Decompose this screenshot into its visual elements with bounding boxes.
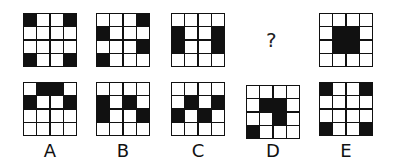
option-b-label[interactable]: B: [96, 140, 150, 161]
empty-cell: [64, 83, 76, 95]
option-c-grid[interactable]: [171, 82, 225, 136]
empty-cell: [333, 54, 345, 66]
empty-cell: [37, 54, 49, 66]
empty-cell: [24, 27, 36, 39]
empty-cell: [212, 110, 224, 122]
empty-cell: [172, 54, 184, 66]
question-grid-1: [23, 13, 77, 67]
filled-cell: [320, 123, 332, 135]
question-grid-2: [96, 13, 150, 67]
option-e-grid[interactable]: [319, 82, 373, 136]
filled-cell: [24, 96, 36, 108]
empty-cell: [37, 123, 49, 135]
filled-cell: [212, 96, 224, 108]
empty-cell: [51, 14, 63, 26]
filled-cell: [274, 99, 286, 111]
empty-cell: [124, 41, 136, 53]
empty-cell: [137, 96, 149, 108]
empty-cell: [333, 14, 345, 26]
empty-cell: [124, 83, 136, 95]
empty-cell: [137, 54, 149, 66]
question-grid-5: [319, 13, 373, 67]
filled-cell: [97, 110, 109, 122]
empty-cell: [333, 83, 345, 95]
filled-cell: [97, 96, 109, 108]
empty-cell: [64, 110, 76, 122]
option-a-label[interactable]: A: [23, 140, 77, 161]
empty-cell: [37, 27, 49, 39]
empty-cell: [274, 126, 286, 138]
filled-cell: [172, 41, 184, 53]
empty-cell: [260, 113, 272, 125]
filled-cell: [172, 27, 184, 39]
empty-cell: [260, 126, 272, 138]
empty-cell: [212, 14, 224, 26]
option-d-grid[interactable]: [246, 85, 300, 139]
empty-cell: [287, 86, 299, 98]
empty-cell: [64, 41, 76, 53]
empty-cell: [124, 27, 136, 39]
filled-cell: [97, 27, 109, 39]
filled-cell: [124, 96, 136, 108]
empty-cell: [137, 27, 149, 39]
filled-cell: [97, 54, 109, 66]
empty-cell: [320, 14, 332, 26]
empty-cell: [110, 110, 122, 122]
empty-cell: [347, 110, 359, 122]
empty-cell: [347, 96, 359, 108]
empty-cell: [137, 83, 149, 95]
empty-cell: [51, 41, 63, 53]
empty-cell: [110, 41, 122, 53]
filled-cell: [347, 27, 359, 39]
empty-cell: [110, 54, 122, 66]
empty-cell: [333, 96, 345, 108]
filled-cell: [212, 27, 224, 39]
filled-cell: [212, 41, 224, 53]
question-grid-3: [171, 13, 225, 67]
empty-cell: [172, 83, 184, 95]
filled-cell: [37, 83, 49, 95]
empty-cell: [360, 41, 372, 53]
empty-cell: [320, 27, 332, 39]
empty-cell: [51, 110, 63, 122]
option-b-grid[interactable]: [96, 82, 150, 136]
empty-cell: [124, 54, 136, 66]
empty-cell: [37, 14, 49, 26]
missing-grid-question-mark: ?: [266, 28, 277, 52]
empty-cell: [185, 41, 197, 53]
empty-cell: [320, 96, 332, 108]
option-e-label[interactable]: E: [319, 140, 373, 161]
empty-cell: [64, 123, 76, 135]
empty-cell: [360, 110, 372, 122]
empty-cell: [199, 27, 211, 39]
empty-cell: [124, 123, 136, 135]
option-c-label[interactable]: C: [171, 140, 225, 161]
filled-cell: [260, 99, 272, 111]
empty-cell: [185, 110, 197, 122]
empty-cell: [51, 96, 63, 108]
empty-cell: [199, 96, 211, 108]
empty-cell: [320, 54, 332, 66]
empty-cell: [24, 41, 36, 53]
filled-cell: [320, 83, 332, 95]
filled-cell: [137, 41, 149, 53]
option-a-grid[interactable]: [23, 82, 77, 136]
empty-cell: [24, 123, 36, 135]
empty-cell: [172, 123, 184, 135]
empty-cell: [110, 14, 122, 26]
empty-cell: [247, 86, 259, 98]
empty-cell: [260, 86, 272, 98]
option-d-label[interactable]: D: [246, 140, 300, 161]
filled-cell: [247, 126, 259, 138]
empty-cell: [360, 27, 372, 39]
empty-cell: [97, 41, 109, 53]
empty-cell: [124, 14, 136, 26]
empty-cell: [185, 27, 197, 39]
empty-cell: [347, 123, 359, 135]
empty-cell: [360, 54, 372, 66]
empty-cell: [97, 123, 109, 135]
empty-cell: [110, 83, 122, 95]
empty-cell: [199, 54, 211, 66]
empty-cell: [333, 123, 345, 135]
empty-cell: [199, 83, 211, 95]
